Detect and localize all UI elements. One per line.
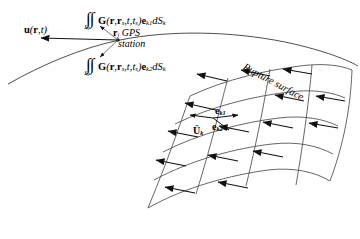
figure-canvas: ∫∫SkG(r,rs,t,ts)ek1dSk ∫∫SkG(r,rs,t,ts)e… [0, 0, 360, 239]
greens-function-symbol-bottom: G [98, 61, 106, 72]
gps-station-label-line2: station [118, 39, 145, 49]
slip-rate-label: Ük [193, 126, 203, 137]
green-integral-e-k2-label: ∫∫SkG(r,rs,t,ts)ek2dSk [86, 56, 166, 73]
greens-function-symbol-top: G [98, 15, 106, 26]
slip-rate-vector [190, 115, 213, 118]
rupture-surface-mesh [148, 65, 352, 208]
area-element-top: dS [152, 15, 163, 26]
integral-domain-bottom: Sk [84, 70, 89, 76]
diagram-vector-art [0, 0, 360, 239]
e-k1-label: ek1 [215, 106, 226, 117]
displacement-label: u(r,t) [24, 25, 47, 36]
area-element-bottom: dS [152, 61, 163, 72]
integral-domain-top: Sk [84, 24, 89, 30]
displacement-arrow [41, 38, 118, 40]
green-integral-e-k1-label: ∫∫SkG(r,rs,t,ts)ek1dSk [86, 10, 166, 27]
earth-surface-curve [8, 33, 358, 84]
gps-text: GPS [122, 27, 140, 38]
e-k2-label: ek2 [212, 122, 223, 133]
